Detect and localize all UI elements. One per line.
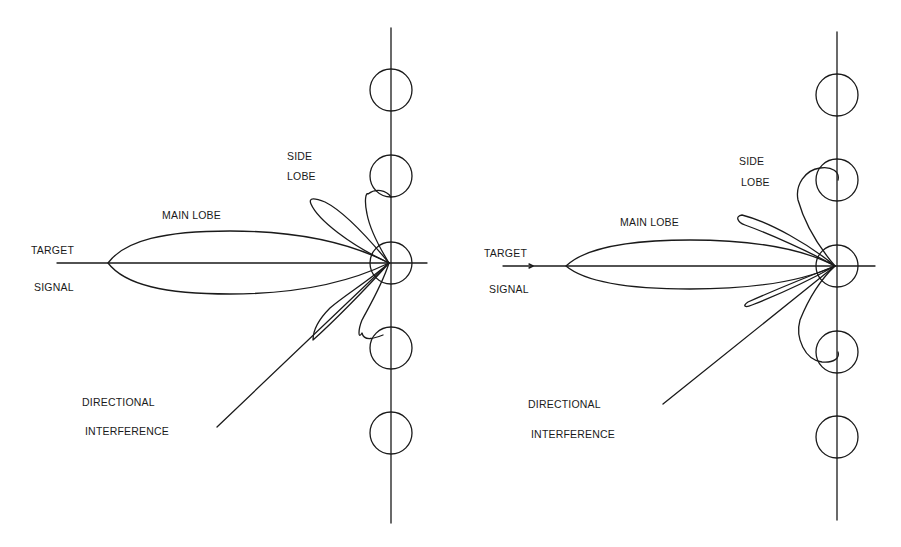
left-main-lobe-label: MAIN LOBE (162, 209, 221, 221)
left-target-label: TARGET (31, 244, 74, 256)
right-grating-lobe-upper (797, 168, 838, 266)
right-main-lobe-label: MAIN LOBE (620, 216, 679, 228)
right-lobe-label: LOBE (741, 176, 770, 188)
left-signal-label: SIGNAL (34, 281, 74, 293)
left-side-label: SIDE (287, 150, 312, 162)
right-grating-lobe-lower (799, 266, 839, 362)
left-interference-label: INTERFERENCE (85, 425, 169, 437)
left-lobe-label: LOBE (287, 170, 316, 182)
right-target-label: TARGET (484, 247, 527, 259)
right-panel (503, 32, 875, 520)
left-interference-ray (217, 263, 389, 427)
left-grating-lobe-upper (365, 190, 391, 263)
left-panel (57, 28, 427, 523)
left-side-lobe-upper (310, 199, 389, 263)
beam-pattern-diagram (0, 0, 901, 547)
right-interference-label: INTERFERENCE (531, 428, 615, 440)
right-directional-label: DIRECTIONAL (528, 398, 601, 410)
right-signal-label: SIGNAL (489, 283, 529, 295)
right-side-label: SIDE (739, 155, 764, 167)
left-directional-label: DIRECTIONAL (82, 396, 155, 408)
right-side-lobe-upper (738, 215, 835, 266)
